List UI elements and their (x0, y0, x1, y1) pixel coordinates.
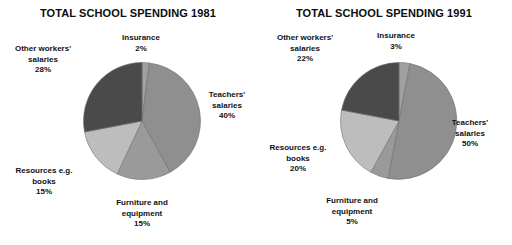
slice-label-insurance-1991-pct: 3% (353, 42, 439, 53)
slice-label-other-workers-1991-line2: salaries (290, 44, 320, 53)
slice-label-furniture-1991-pct: 5% (302, 217, 402, 228)
slice-label-furniture-1981: Furniture and equipment 15% (92, 198, 192, 230)
slice-label-teachers-1991-line1: Teachers' (452, 118, 488, 127)
slice-label-teachers-1981: Teachers' salaries 40% (199, 90, 255, 122)
slice-label-furniture-1981-line1: Furniture and (116, 198, 168, 207)
slice-label-teachers-1981-line1: Teachers' (209, 90, 245, 99)
slice-label-resources-1981-line2: books (32, 177, 56, 186)
slice-label-insurance-1981-line1: Insurance (122, 33, 160, 42)
pie-svg-1991 (340, 62, 458, 180)
slice-label-furniture-1991-line1: Furniture and (326, 196, 378, 205)
slice-label-resources-1991-line2: books (286, 154, 310, 163)
slice-label-resources-1991-line1: Resources e.g. (270, 143, 327, 152)
pie-slice-other-workers-salaries (84, 63, 142, 132)
chart-title-1981: TOTAL SCHOOL SPENDING 1981 (0, 7, 256, 19)
pie-slices-1981 (84, 63, 201, 180)
slice-label-other-workers-1991: Other workers' salaries 22% (264, 33, 346, 65)
slice-label-furniture-1981-line2: equipment (122, 209, 162, 218)
slice-label-other-workers-1991-pct: 22% (264, 54, 346, 65)
slice-label-insurance-1991-line1: Insurance (377, 31, 415, 40)
slice-label-furniture-1991: Furniture and equipment 5% (302, 196, 402, 228)
slice-label-furniture-1991-line2: equipment (332, 207, 372, 216)
slice-label-resources-1991-pct: 20% (256, 164, 340, 175)
pie-graphic-1981 (83, 62, 201, 180)
slice-label-teachers-1981-pct: 40% (199, 111, 255, 122)
slice-label-insurance-1981-pct: 2% (96, 44, 186, 55)
slice-label-insurance-1981: Insurance 2% (96, 33, 186, 54)
slice-label-teachers-1991: Teachers' salaries 50% (442, 118, 498, 150)
pie-chart-1981: TOTAL SCHOOL SPENDING 1981 Insurance 2% … (0, 0, 256, 245)
pie-graphic-1991 (340, 62, 458, 180)
slice-label-resources-1981-line1: Resources e.g. (16, 166, 73, 175)
chart-title-1991: TOTAL SCHOOL SPENDING 1991 (256, 7, 512, 19)
slice-label-teachers-1981-line2: salaries (212, 101, 242, 110)
slice-label-other-workers-1991-line1: Other workers' (277, 33, 333, 42)
slice-label-other-workers-1981-pct: 28% (2, 65, 84, 76)
slice-label-other-workers-1981: Other workers' salaries 28% (2, 44, 84, 76)
slice-label-other-workers-1981-line2: salaries (28, 55, 58, 64)
slice-label-resources-1981: Resources e.g. books 15% (4, 166, 84, 198)
pie-slices-1991 (341, 63, 457, 180)
slice-label-resources-1981-pct: 15% (4, 187, 84, 198)
slice-label-teachers-1991-line2: salaries (455, 129, 485, 138)
slice-label-teachers-1991-pct: 50% (442, 139, 498, 150)
slice-label-resources-1991: Resources e.g. books 20% (256, 143, 340, 175)
slice-label-furniture-1981-pct: 15% (92, 219, 192, 230)
slice-label-other-workers-1981-line1: Other workers' (15, 44, 71, 53)
pie-chart-1991: TOTAL SCHOOL SPENDING 1991 Insurance 3% … (256, 0, 512, 245)
slice-label-insurance-1991: Insurance 3% (353, 31, 439, 52)
pie-svg-1981 (83, 62, 201, 180)
